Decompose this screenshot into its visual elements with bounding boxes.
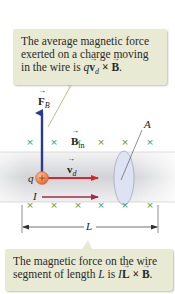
field-marker-x: × bbox=[97, 137, 105, 147]
field-marker-x: × bbox=[26, 137, 34, 147]
field-marker-x: × bbox=[74, 200, 82, 210]
field-marker-x: × bbox=[50, 200, 58, 210]
field-label: Bin bbox=[71, 135, 85, 150]
charge-label: q bbox=[28, 172, 34, 184]
cross-section-area bbox=[114, 151, 134, 205]
length-label: L bbox=[86, 220, 92, 232]
force-label: FB bbox=[38, 95, 50, 110]
field-marker-x: × bbox=[121, 137, 129, 147]
field-marker-x: × bbox=[97, 200, 105, 210]
bottom-callout: The magnetic force on the wire segment o… bbox=[5, 249, 173, 291]
top-callout: The average magnetic force exerted on a … bbox=[13, 29, 167, 85]
top-callout-leader bbox=[48, 87, 70, 127]
bottom-callout-line-2: segment of length L is IL × B. bbox=[13, 268, 167, 281]
top-callout-line-3: in the wire is qvd × B. bbox=[21, 61, 161, 78]
bottom-callout-pointer bbox=[82, 240, 92, 249]
field-marker-x: × bbox=[121, 200, 129, 210]
top-callout-line-1: The average magnetic force bbox=[21, 35, 161, 48]
velocity-label: vd bbox=[67, 163, 77, 178]
field-marker-x: × bbox=[146, 137, 154, 147]
field-marker-x: × bbox=[146, 200, 154, 210]
field-marker-x: × bbox=[50, 137, 58, 147]
current-label: I bbox=[33, 190, 37, 202]
area-label: A bbox=[144, 118, 151, 130]
